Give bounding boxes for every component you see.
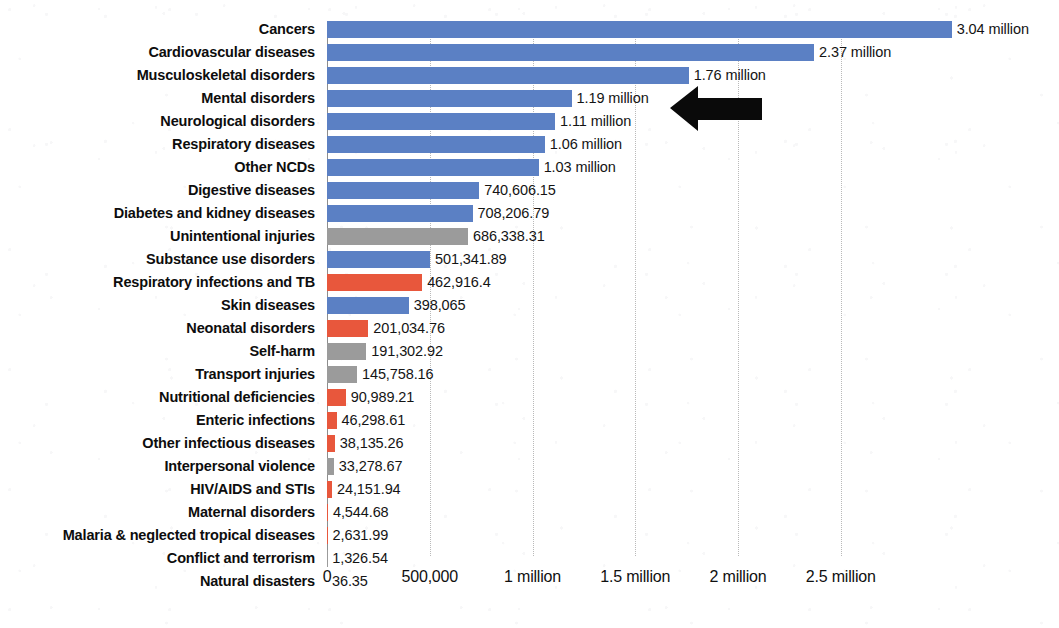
bar-row[interactable]: Other infectious diseases38,135.26 xyxy=(0,432,1059,455)
bar-row[interactable]: Cardiovascular diseases2.37 million xyxy=(0,41,1059,64)
bar-row[interactable]: HIV/AIDS and STIs24,151.94 xyxy=(0,478,1059,501)
bar-rows: Cancers3.04 millionCardiovascular diseas… xyxy=(0,18,1059,593)
bar-container: 462,916.4 xyxy=(327,274,1059,291)
x-axis-tick-label: 2 million xyxy=(710,568,767,586)
bar-container: 708,206.79 xyxy=(327,205,1059,222)
left-pointing-arrow-icon xyxy=(668,84,764,132)
bar-category-label: Maternal disorders xyxy=(0,501,321,524)
bar[interactable] xyxy=(327,458,334,475)
bar-category-label: Interpersonal violence xyxy=(0,455,321,478)
bar-category-label: Respiratory diseases xyxy=(0,133,321,156)
bar-row[interactable]: Self-harm191,302.92 xyxy=(0,340,1059,363)
bar[interactable] xyxy=(327,205,473,222)
bar[interactable] xyxy=(327,228,468,245)
bar-container: 33,278.67 xyxy=(327,458,1059,475)
bar-value-label: 4,544.68 xyxy=(328,504,389,521)
bar-row[interactable]: Skin diseases398,065 xyxy=(0,294,1059,317)
bar[interactable] xyxy=(327,67,689,84)
bar-value-label: 201,034.76 xyxy=(368,320,445,337)
bar-category-label: Self-harm xyxy=(0,340,321,363)
bar-container: 201,034.76 xyxy=(327,320,1059,337)
bar-row[interactable]: Unintentional injuries686,338.31 xyxy=(0,225,1059,248)
bar-value-label: 33,278.67 xyxy=(334,458,403,475)
bar-category-label: Other infectious diseases xyxy=(0,432,321,455)
bar-category-label: Substance use disorders xyxy=(0,248,321,271)
bar[interactable] xyxy=(327,412,337,429)
bar-container: 1.03 million xyxy=(327,159,1059,176)
x-axis-tick-labels: 0500,0001 million1.5 million2 million2.5… xyxy=(0,568,1059,594)
bar[interactable] xyxy=(327,389,346,406)
bar[interactable] xyxy=(327,90,572,107)
bar-container: 1,326.54 xyxy=(327,550,1059,567)
bar-row[interactable]: Musculoskeletal disorders1.76 million xyxy=(0,64,1059,87)
bar-category-label: Neonatal disorders xyxy=(0,317,321,340)
bar-value-label: 740,606.15 xyxy=(479,182,556,199)
bar[interactable] xyxy=(327,44,814,61)
bar-value-label: 3.04 million xyxy=(952,21,1029,38)
bar-value-label: 46,298.61 xyxy=(337,412,406,429)
bar-row[interactable]: Interpersonal violence33,278.67 xyxy=(0,455,1059,478)
bar-value-label: 2,631.99 xyxy=(328,527,389,544)
bar[interactable] xyxy=(327,320,368,337)
bar-category-label: Enteric infections xyxy=(0,409,321,432)
bar-category-label: Malaria & neglected tropical diseases xyxy=(0,524,321,547)
bar-container: 191,302.92 xyxy=(327,343,1059,360)
bar-value-label: 398,065 xyxy=(409,297,466,314)
bar-row[interactable]: Enteric infections46,298.61 xyxy=(0,409,1059,432)
bar-container: 38,135.26 xyxy=(327,435,1059,452)
bar-category-label: Nutritional deficiencies xyxy=(0,386,321,409)
bar[interactable] xyxy=(327,159,539,176)
bar-container: 4,544.68 xyxy=(327,504,1059,521)
bar-value-label: 191,302.92 xyxy=(366,343,443,360)
horizontal-bar-chart: Cancers3.04 millionCardiovascular diseas… xyxy=(0,0,1059,628)
bar-row[interactable]: Malaria & neglected tropical diseases2,6… xyxy=(0,524,1059,547)
bar-container: 3.04 million xyxy=(327,21,1059,38)
bar-value-label: 1,326.54 xyxy=(327,550,388,567)
bar-container: 686,338.31 xyxy=(327,228,1059,245)
bar[interactable] xyxy=(327,343,366,360)
bar-row[interactable]: Mental disorders1.19 million xyxy=(0,87,1059,110)
bar[interactable] xyxy=(327,182,479,199)
bar-category-label: Musculoskeletal disorders xyxy=(0,64,321,87)
bar-container: 1.06 million xyxy=(327,136,1059,153)
bar-container: 740,606.15 xyxy=(327,182,1059,199)
bar-container: 1.76 million xyxy=(327,67,1059,84)
bar-row[interactable]: Respiratory diseases1.06 million xyxy=(0,133,1059,156)
bar[interactable] xyxy=(327,435,335,452)
bar-row[interactable]: Conflict and terrorism1,326.54 xyxy=(0,547,1059,570)
bar-row[interactable]: Nutritional deficiencies90,989.21 xyxy=(0,386,1059,409)
bar[interactable] xyxy=(327,251,430,268)
bar-row[interactable]: Digestive diseases740,606.15 xyxy=(0,179,1059,202)
bar-row[interactable]: Neonatal disorders201,034.76 xyxy=(0,317,1059,340)
bar-category-label: Respiratory infections and TB xyxy=(0,271,321,294)
bar-value-label: 1.19 million xyxy=(572,90,649,107)
bar-category-label: Unintentional injuries xyxy=(0,225,321,248)
bar-row[interactable]: Substance use disorders501,341.89 xyxy=(0,248,1059,271)
bar-container: 145,758.16 xyxy=(327,366,1059,383)
bar-category-label: Skin diseases xyxy=(0,294,321,317)
bar-category-label: Mental disorders xyxy=(0,87,321,110)
bar[interactable] xyxy=(327,297,409,314)
bar-container: 90,989.21 xyxy=(327,389,1059,406)
bar-category-label: Cancers xyxy=(0,18,321,41)
bar-category-label: Digestive diseases xyxy=(0,179,321,202)
bar-row[interactable]: Transport injuries145,758.16 xyxy=(0,363,1059,386)
bar-value-label: 462,916.4 xyxy=(422,274,491,291)
bar-container: 24,151.94 xyxy=(327,481,1059,498)
bar-row[interactable]: Cancers3.04 million xyxy=(0,18,1059,41)
bar-row[interactable]: Neurological disorders1.11 million xyxy=(0,110,1059,133)
x-axis-tick-label: 500,000 xyxy=(402,568,458,586)
bar[interactable] xyxy=(327,113,555,130)
bar-value-label: 2.37 million xyxy=(814,44,891,61)
bar[interactable] xyxy=(327,21,952,38)
bar-category-label: Diabetes and kidney diseases xyxy=(0,202,321,225)
bar-row[interactable]: Respiratory infections and TB462,916.4 xyxy=(0,271,1059,294)
bar-container: 501,341.89 xyxy=(327,251,1059,268)
bar[interactable] xyxy=(327,366,357,383)
bar-row[interactable]: Other NCDs1.03 million xyxy=(0,156,1059,179)
bar-row[interactable]: Maternal disorders4,544.68 xyxy=(0,501,1059,524)
bar[interactable] xyxy=(327,136,545,153)
bar-row[interactable]: Diabetes and kidney diseases708,206.79 xyxy=(0,202,1059,225)
bar[interactable] xyxy=(327,274,422,291)
bar-value-label: 145,758.16 xyxy=(357,366,434,383)
